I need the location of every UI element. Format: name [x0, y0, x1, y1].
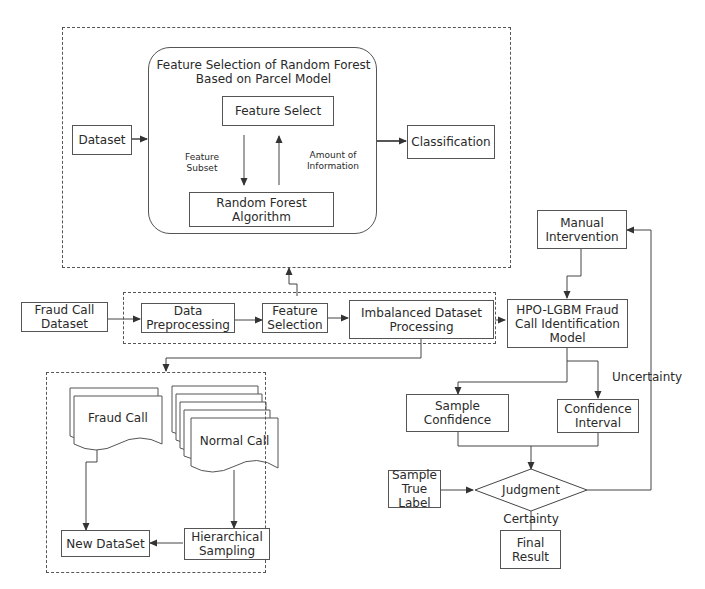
final-result-box: Final Result: [500, 530, 561, 569]
hpo-lgbm-box: HPO-LGBM Fraud Call Identification Model: [507, 299, 628, 348]
amount-info-label: Amount of Information: [302, 150, 364, 172]
classification-box: Classification: [407, 125, 495, 159]
feature-selection-box: Feature Selection: [262, 303, 328, 333]
fraud-call-label: Fraud Call: [74, 411, 162, 425]
new-dataset-box: New DataSet: [61, 530, 150, 557]
merge-line: [458, 432, 598, 446]
arrow-uncertainty-loop: [587, 230, 651, 490]
normal-call-label: Normal Call: [191, 434, 278, 448]
dataset-box: Dataset: [72, 125, 132, 155]
data-preprocessing-box: Data Preprocessing: [141, 303, 235, 333]
sample-confidence-box: Sample Confidence: [406, 394, 509, 432]
imbalanced-processing-box: Imbalanced Dataset Processing: [349, 300, 494, 339]
arrow-hpo-to-sample-conf: [458, 348, 567, 394]
parcel-model-title: Feature Selection of Random Forest Based…: [155, 58, 372, 86]
sample-true-label-box: Sample True Label: [388, 470, 441, 508]
fraud-call-dataset-box: Fraud Call Dataset: [21, 302, 108, 332]
hierarchical-sampling-box: Hierarchical Sampling: [184, 528, 270, 560]
random-forest-box: Random Forest Algorithm: [189, 192, 334, 227]
uncertainty-label: Uncertainty: [612, 370, 700, 384]
feature-select-box: Feature Select: [222, 96, 334, 126]
arrow-hpo-to-conf-int: [567, 361, 598, 398]
manual-intervention-box: Manual Intervention: [537, 210, 627, 249]
feature-subset-label: Feature Subset: [180, 152, 224, 174]
arrow-manual-to-hpo: [567, 249, 581, 298]
confidence-interval-box: Confidence Interval: [557, 399, 639, 433]
judgment-label: Judgment: [495, 483, 567, 497]
certainty-label: Certainty: [499, 512, 563, 526]
